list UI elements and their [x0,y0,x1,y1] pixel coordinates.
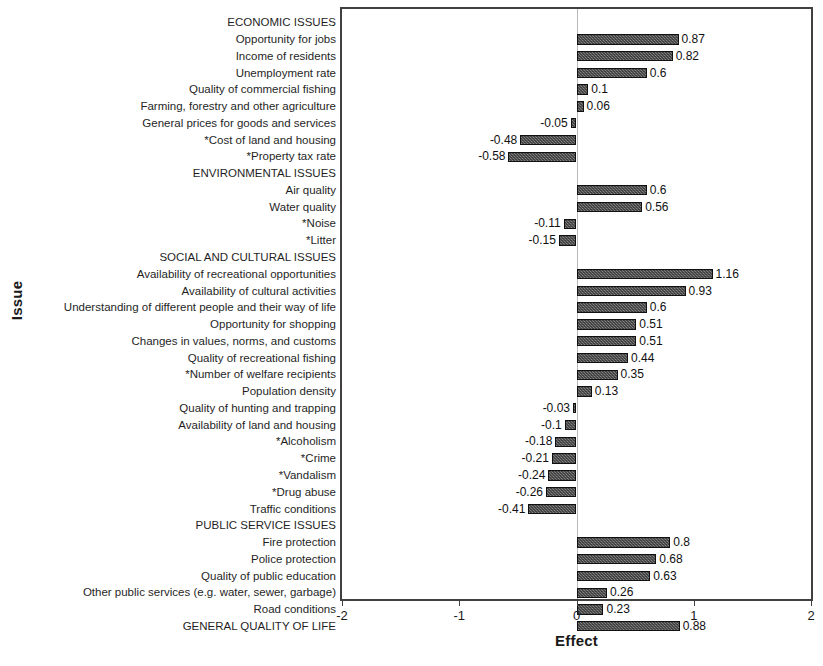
category-label: *Cost of land and housing [204,132,336,149]
bar-value-label: 0.82 [676,48,699,65]
category-label: PUBLIC SERVICE ISSUES [196,517,336,534]
bar-track: -0.03 [342,400,811,417]
bar-track: -0.21 [342,450,811,467]
chart-row: Income of residents0.82 [0,48,823,65]
chart-row: Population density0.13 [0,383,823,400]
bar-value-label: -0.26 [516,484,543,501]
x-axis-tick-label: -1 [453,608,465,623]
bar-track: 0.8 [342,534,811,551]
bar [577,84,589,94]
chart-row: *Crime-0.21 [0,450,823,467]
bar-track: 0.82 [342,48,811,65]
bar [577,286,686,296]
category-label: Air quality [286,182,337,199]
x-axis-tick [459,601,460,606]
category-label: Opportunity for shopping [210,316,336,333]
category-label: *Property tax rate [247,148,336,165]
bar-track: 0.35 [342,366,811,383]
x-axis-tick-label: -2 [336,608,348,623]
bar [577,269,713,279]
bar-track: 0.51 [342,333,811,350]
x-axis-tick [577,601,578,606]
category-label: Fire protection [262,534,336,551]
bar-track: -0.58 [342,148,811,165]
bar-track: 0.51 [342,316,811,333]
category-label: Quality of recreational fishing [188,350,336,367]
bar-value-label: -0.05 [540,115,567,132]
category-label: *Litter [306,232,336,249]
bar [555,437,576,447]
x-axis-tick [811,601,812,606]
category-label: Farming, forestry and other agriculture [140,98,336,115]
category-label: Water quality [269,199,336,216]
category-label: *Vandalism [279,467,336,484]
chart-row: Understanding of different people and th… [0,299,823,316]
bar-value-label: 0.44 [631,350,654,367]
bar-value-label: 0.63 [653,568,676,585]
bar-value-label: 0.13 [595,383,618,400]
bar-track: 0.63 [342,568,811,585]
chart-row: Changes in values, norms, and customs0.5… [0,333,823,350]
bar [571,118,577,128]
bar-value-label: -0.15 [529,232,556,249]
chart-row: Unemployment rate0.6 [0,65,823,82]
bar [577,588,607,598]
chart-row: *Drug abuse-0.26 [0,484,823,501]
bar [577,101,584,111]
bar-value-label: 0.06 [587,98,610,115]
bar-value-label: -0.48 [490,132,517,149]
bar [577,51,673,61]
category-label: *Crime [301,450,336,467]
category-label: Availability of cultural activities [182,283,336,300]
chart-row: PUBLIC SERVICE ISSUES [0,517,823,534]
bar-track: -0.26 [342,484,811,501]
bar-value-label: -0.21 [522,450,549,467]
bar-value-label: -0.18 [525,433,552,450]
bar [577,319,637,329]
x-axis-tick-label: 2 [807,608,814,623]
bar-value-label: 0.51 [639,333,662,350]
category-label: Availability of land and housing [178,417,336,434]
bar [573,403,577,413]
category-label: *Alcoholism [276,433,336,450]
chart-row: Availability of cultural activities0.93 [0,283,823,300]
chart-row: Availability of recreational opportuniti… [0,266,823,283]
category-label: General prices for goods and services [142,115,336,132]
bar-value-label: -0.03 [543,400,570,417]
bar [577,202,643,212]
bar-track: -0.15 [342,232,811,249]
bar [552,453,577,463]
bar [508,152,576,162]
bar-track: 0.87 [342,31,811,48]
chart-row: SOCIAL AND CULTURAL ISSUES [0,249,823,266]
bar-track [342,165,811,182]
chart-row: Quality of public education0.63 [0,568,823,585]
bar-value-label: -0.58 [478,148,505,165]
category-label: Other public services (e.g. water, sewer… [83,584,336,601]
chart-row: ENVIRONMENTAL ISSUES [0,165,823,182]
bar-track: -0.11 [342,215,811,232]
bar-track: -0.41 [342,501,811,518]
bar-value-label: 0.56 [645,199,668,216]
bar [577,386,592,396]
bar-track: 0.6 [342,65,811,82]
bar-value-label: 0.87 [682,31,705,48]
category-label: GENERAL QUALITY OF LIFE [183,618,336,635]
chart-row: Quality of hunting and trapping-0.03 [0,400,823,417]
bar-track: 0.44 [342,350,811,367]
bar-track: 0.6 [342,299,811,316]
category-label: ECONOMIC ISSUES [227,14,336,31]
bar [528,504,576,514]
bar-track: 0.26 [342,584,811,601]
chart-row: Other public services (e.g. water, sewer… [0,584,823,601]
x-axis-tick-label: 0 [573,608,580,623]
bar-value-label: 0.35 [621,366,644,383]
bar-track [342,517,811,534]
bar-value-label: 1.16 [716,266,739,283]
bar-track [342,14,811,31]
chart-row: Quality of recreational fishing0.44 [0,350,823,367]
bar-track: 0.1 [342,81,811,98]
bar-value-label: 0.51 [639,316,662,333]
category-label: *Drug abuse [272,484,336,501]
chart-row: *Property tax rate-0.58 [0,148,823,165]
